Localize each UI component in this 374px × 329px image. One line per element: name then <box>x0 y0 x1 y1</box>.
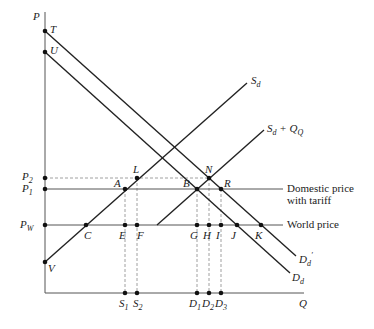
point-label-b: B <box>183 177 190 189</box>
quantity-label-s1: S1 <box>119 297 129 312</box>
price-label-pw: PW <box>19 218 35 233</box>
curve-label-dd-prime: Dd′ <box>298 251 313 268</box>
tariff-quota-diagram: P Q T U V L N A B R C E F G H I J K P2 P… <box>0 0 374 329</box>
point-label-v: V <box>48 262 56 274</box>
x-axis-label: Q <box>299 297 307 309</box>
y-axis-label: P <box>32 10 40 22</box>
demand-curve-dd-prime <box>45 31 296 256</box>
point-label-n: N <box>204 163 213 175</box>
point-label-j: J <box>231 229 237 241</box>
point-label-c: C <box>84 229 92 241</box>
quantity-label-d1: D1 <box>188 297 201 312</box>
point-label-i: I <box>215 229 221 241</box>
point-label-h: H <box>202 229 212 241</box>
point-label-l: L <box>132 163 139 175</box>
point-label-e: E <box>118 229 126 241</box>
point-label-a: A <box>113 177 121 189</box>
point-label-u: U <box>50 44 59 56</box>
quantity-label-d3: D3 <box>214 297 227 312</box>
point-label-k: K <box>254 229 263 241</box>
world-price-label: World price <box>287 218 339 230</box>
curve-label-sd: Sd <box>251 74 262 89</box>
curve-label-sd-plus-qq: Sd + QQ <box>267 122 303 137</box>
domestic-price-label: Domestic price <box>287 182 354 194</box>
point-label-r: R <box>223 177 231 189</box>
point-label-g: G <box>190 229 198 241</box>
point-label-f: F <box>136 229 144 241</box>
quantity-label-s2: S2 <box>133 297 143 312</box>
points <box>43 29 264 296</box>
curve-label-dd: Dd <box>291 271 305 286</box>
quantity-label-d2: D2 <box>201 297 214 312</box>
domestic-price-label-2: with tariff <box>287 194 331 206</box>
point-label-t: T <box>50 23 57 35</box>
